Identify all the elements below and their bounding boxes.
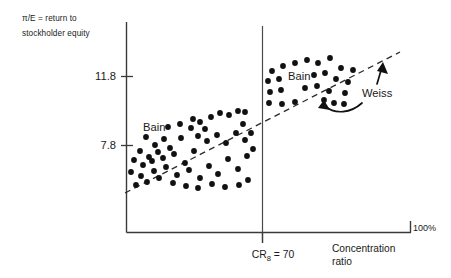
data-point [279,101,285,107]
data-point [331,100,337,106]
data-point [226,112,232,118]
data-point [276,76,282,82]
data-point [155,149,161,155]
data-point [178,135,184,141]
data-point [144,179,150,185]
data-point [191,148,197,154]
data-point [195,133,201,139]
data-point [208,114,214,120]
chart-figure: π/E = return to stockholder equity 11.8 … [0,0,451,278]
data-point [177,121,183,127]
data-point [242,109,248,115]
data-point [225,156,231,162]
data-point [240,121,246,127]
y-axis-caption-line1: π/E = return to [22,14,77,23]
data-point [197,119,203,125]
data-point [186,167,192,173]
data-point [315,60,321,66]
data-point [280,63,286,69]
data-point [248,130,254,136]
data-point [174,172,180,178]
data-point [209,181,215,187]
data-point [304,57,310,63]
data-point [204,138,210,144]
left-cluster-label: Bain [143,121,165,133]
data-point [244,153,250,159]
cr8-label-prefix: CR [252,249,268,260]
data-point [206,163,212,169]
data-point [156,175,162,181]
data-point [133,182,139,188]
right-cluster-label: Bain [288,70,310,82]
data-point [152,142,158,148]
data-point [333,76,339,82]
data-point [149,158,155,164]
weiss-curved-arrow-head [318,100,330,110]
data-point [338,65,344,71]
data-point [131,157,137,163]
data-point [188,125,194,131]
x-axis-end-label: 100% [413,223,436,233]
data-point [267,89,273,95]
data-point [327,55,333,61]
data-point [138,173,144,179]
data-point [183,183,189,189]
data-point [341,101,347,107]
data-point [128,169,134,175]
data-point [163,164,169,170]
data-point [245,177,251,183]
data-point [350,67,356,73]
data-point [292,60,298,66]
x-axis-title-line2: ratio [332,256,352,267]
y-tick-label-lower: 7.8 [100,139,116,151]
data-point [171,151,177,157]
data-point [265,78,271,84]
data-point [314,83,320,89]
data-point [269,68,275,74]
cr8-label-suffix: = 70 [271,249,295,260]
data-point [345,79,351,85]
data-point [292,99,298,105]
data-point [182,160,188,166]
data-point [302,85,308,91]
weiss-up-arrow-head [377,62,388,74]
data-point [236,182,242,188]
data-point [242,137,248,143]
data-point [223,140,229,146]
data-point [161,136,167,142]
data-point [326,88,332,94]
data-point [137,148,143,154]
data-point [222,184,228,190]
data-point [167,145,173,151]
data-point [195,185,201,191]
data-point [165,124,171,130]
data-point [160,155,166,161]
data-point [190,116,196,122]
cr8-divider-label: CR8 = 70 [252,249,295,263]
data-point [250,146,256,152]
data-point [214,132,220,138]
y-tick-label-upper: 11.8 [95,70,116,82]
data-point [235,108,241,114]
y-axis-caption-line2: stockholder equity [22,29,91,38]
data-point [233,130,239,136]
data-point [217,110,223,116]
data-point [278,87,284,93]
data-point [311,72,317,78]
trend-line-label: Weiss [362,87,393,99]
data-point [140,162,146,168]
data-point [170,180,176,186]
data-point [143,134,149,140]
data-point [197,175,203,181]
data-point [151,168,157,174]
data-point [235,166,241,172]
data-point [342,90,348,96]
data-point [322,70,328,76]
scatter-plot-svg: π/E = return to stockholder equity 11.8 … [0,0,451,278]
data-point [266,100,272,106]
data-point [202,126,208,132]
x-axis-title-line1: Concentration [332,243,395,254]
data-point [215,171,221,177]
